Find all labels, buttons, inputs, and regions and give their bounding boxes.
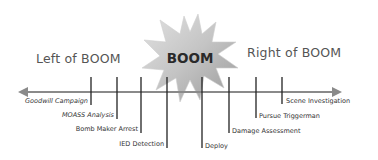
- left-arrow-icon: [18, 87, 28, 97]
- event-label-deploy: Deploy: [205, 142, 228, 150]
- event-label-bomb-maker-arrest: Bomb Maker Arrest: [76, 125, 138, 133]
- event-label-damage-assessment: Damage Assessment: [232, 127, 301, 135]
- event-label-moass-analysis: MOASS Analysis: [62, 111, 114, 119]
- timeline-axis: [0, 0, 378, 160]
- event-label-ied-detection: IED Detection: [119, 140, 164, 148]
- event-label-goodwill-campaign: Goodwill Campaign: [25, 97, 88, 105]
- event-label-scene-investigation: Scene Investigation: [286, 97, 350, 105]
- left-right-of-boom-diagram: BOOM Left of BOOM Right of BOOM Goodwill…: [0, 0, 378, 160]
- right-arrow-icon: [332, 87, 342, 97]
- event-label-pursue-triggerman: Pursue Triggerman: [259, 112, 320, 120]
